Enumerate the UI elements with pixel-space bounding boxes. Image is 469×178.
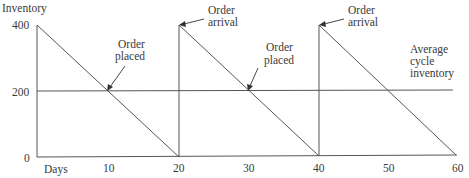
annotation-order-placed-2: Order bbox=[266, 41, 293, 53]
x-axis bbox=[37, 155, 457, 157]
annotation-order-arrival-1-line2: arrival bbox=[208, 16, 238, 28]
annotation-order-placed-2-line2: placed bbox=[264, 54, 294, 67]
average-inventory-line bbox=[37, 90, 453, 91]
x-tick-40: 40 bbox=[313, 162, 325, 174]
arrowhead-order-placed-2 bbox=[247, 84, 253, 91]
x-tick-50: 50 bbox=[383, 162, 395, 174]
y-tick-0: 0 bbox=[24, 152, 30, 164]
x-tick-60: 60 bbox=[452, 162, 464, 174]
arrow-order-placed-1 bbox=[110, 66, 125, 87]
annotation-order-placed-1: Order bbox=[118, 38, 145, 50]
y-axis-title: Inventory bbox=[2, 2, 47, 15]
x-tick-30: 30 bbox=[243, 162, 255, 174]
x-tick-20: 20 bbox=[173, 162, 185, 174]
y-tick-400: 400 bbox=[12, 19, 30, 31]
annotation-order-arrival-2: Order bbox=[348, 4, 375, 16]
arrow-order-placed-2 bbox=[250, 68, 258, 86]
y-tick-200: 200 bbox=[12, 86, 30, 98]
annotation-order-placed-1-line2: placed bbox=[115, 50, 145, 63]
x-tick-10: 10 bbox=[103, 162, 115, 174]
annotation-order-arrival-2-line2: arrival bbox=[348, 16, 378, 28]
arrow-order-arrival-2 bbox=[324, 19, 344, 24]
x-axis-title: Days bbox=[44, 163, 68, 176]
annotation-average-cycle-inventory-line3: inventory bbox=[410, 67, 454, 80]
inventory-cycle-chart: Inventory 400 200 0 Days 10 20 30 40 50 … bbox=[0, 0, 469, 178]
arrow-order-arrival-1 bbox=[184, 19, 204, 24]
annotation-order-arrival-1: Order bbox=[208, 4, 235, 16]
arrowhead-order-placed-1 bbox=[107, 84, 113, 91]
